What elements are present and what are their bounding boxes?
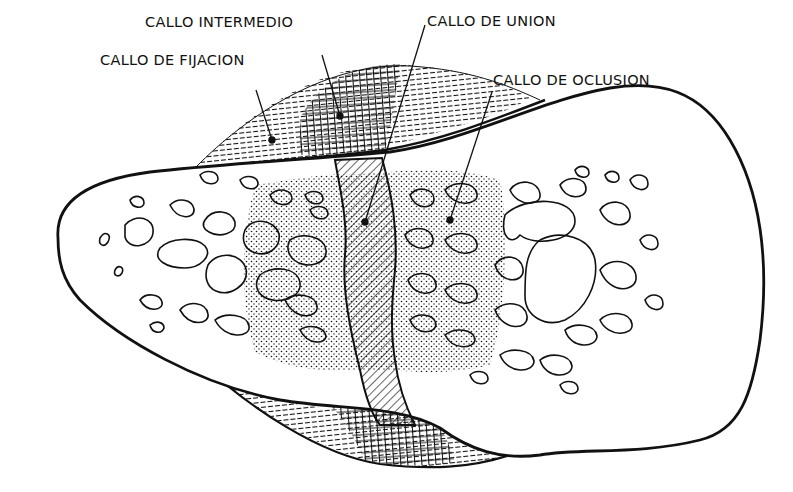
label-callo-intermedio: CALLO INTERMEDIO xyxy=(145,14,293,30)
label-callo-de-oclusion: CALLO DE OCLUSION xyxy=(493,72,650,88)
label-callo-de-union: CALLO DE UNION xyxy=(427,13,556,29)
label-callo-de-fijacion: CALLO DE FIJACION xyxy=(100,52,245,68)
callus-diagram xyxy=(0,0,793,492)
